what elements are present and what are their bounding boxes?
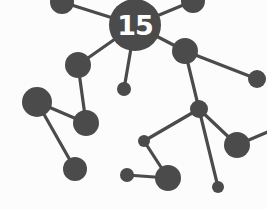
node-small-below-hub xyxy=(117,82,131,96)
node-j xyxy=(212,181,224,193)
hub-label: 15 xyxy=(117,10,153,41)
node-i xyxy=(120,168,134,182)
node-big-left xyxy=(22,87,52,117)
molecule-diagram: 15 xyxy=(0,0,267,209)
node-top-right xyxy=(181,0,205,13)
node-far-right xyxy=(248,70,266,88)
node-h xyxy=(155,165,181,191)
node-d xyxy=(63,157,87,181)
node-top-left xyxy=(50,0,74,14)
node-c xyxy=(73,110,99,136)
node-junction xyxy=(190,100,208,118)
node-b xyxy=(172,38,198,64)
edge-junction-j xyxy=(199,109,218,187)
node-g xyxy=(224,132,250,158)
edge-junction-f xyxy=(144,109,199,141)
node-a xyxy=(65,52,91,78)
node-f xyxy=(138,135,150,147)
